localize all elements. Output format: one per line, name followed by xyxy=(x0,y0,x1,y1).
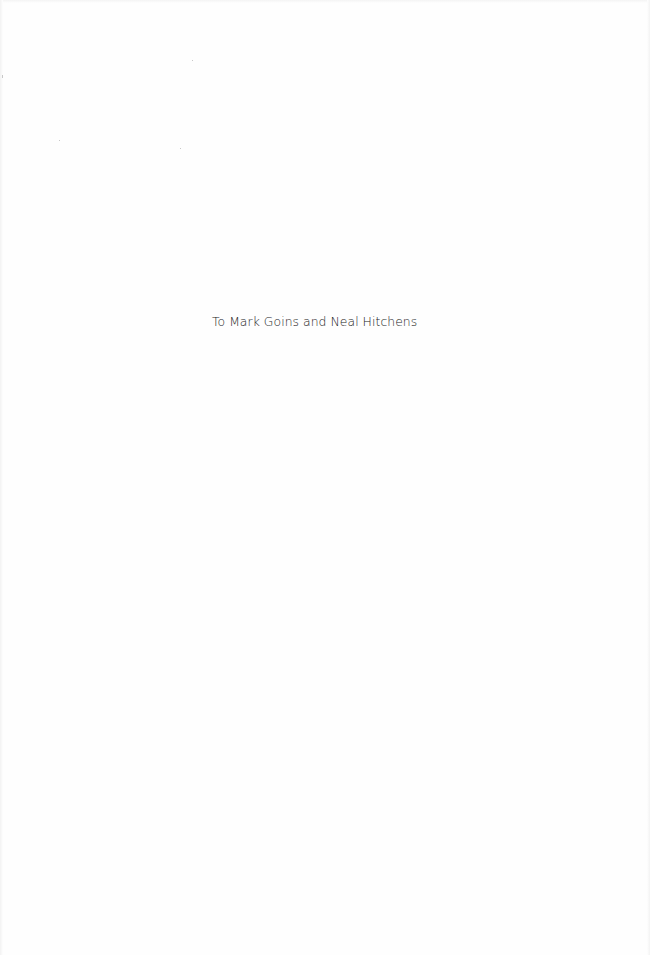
scan-speck xyxy=(192,60,193,61)
dedication-text: To Mark Goins and Neal Hitchens xyxy=(212,314,444,330)
book-page: To Mark Goins and Neal Hitchens xyxy=(0,0,650,955)
scan-speck xyxy=(59,140,60,141)
scan-speck xyxy=(2,75,3,78)
scan-edge-left xyxy=(0,0,3,955)
scan-speck xyxy=(180,148,181,149)
scan-edge-top xyxy=(0,0,650,3)
